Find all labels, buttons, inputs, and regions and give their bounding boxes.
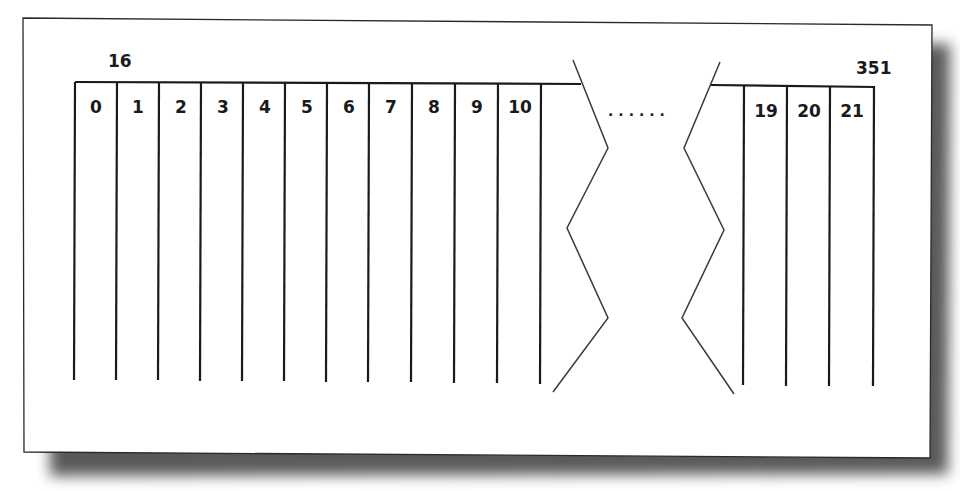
start-address-label: 16 xyxy=(108,51,132,71)
slot-label: 19 xyxy=(754,101,778,121)
ellipsis: ...... xyxy=(608,103,670,119)
slot-label: 21 xyxy=(840,101,864,121)
slot-label: 4 xyxy=(259,97,271,117)
diagram-svg: 16 351 ...... 0 1 2 3 4 5 6 7 8 9 10 19 … xyxy=(0,0,960,491)
slot-label: 10 xyxy=(508,97,532,117)
right-slot-labels: 19 20 21 xyxy=(754,101,864,121)
slot-label: 6 xyxy=(343,97,355,117)
slot-label: 20 xyxy=(797,101,821,121)
diagram-canvas: 16 351 ...... 0 1 2 3 4 5 6 7 8 9 10 19 … xyxy=(0,0,960,491)
slot-label: 8 xyxy=(428,97,440,117)
slot-label: 2 xyxy=(175,97,187,117)
end-address-label: 351 xyxy=(856,58,892,78)
slot-label: 9 xyxy=(471,97,483,117)
slot-label: 5 xyxy=(301,97,313,117)
slot-label: 0 xyxy=(90,97,102,117)
slot-label: 1 xyxy=(132,97,144,117)
slot-label: 7 xyxy=(385,97,397,117)
slot-label: 3 xyxy=(217,97,229,117)
